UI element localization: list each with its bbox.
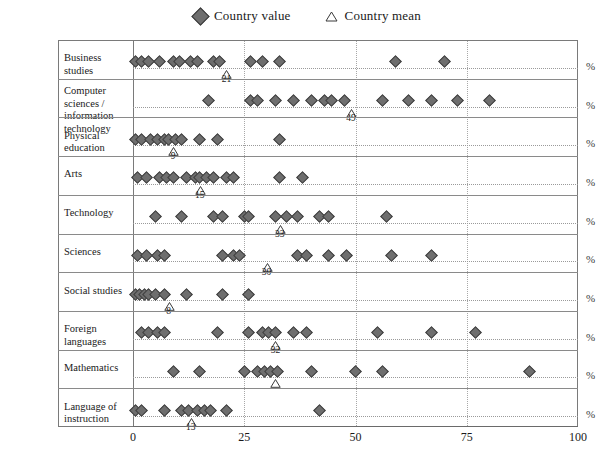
row-baseline [133, 261, 578, 262]
legend-item-country-value: Country value [194, 8, 291, 24]
row-separator [58, 156, 578, 157]
row-separator [58, 79, 578, 80]
row-separator [58, 350, 578, 351]
legend-item-country-mean: Country mean [325, 8, 421, 24]
row-label-social-studies: Social studies [64, 285, 132, 298]
percent-unit-label: % [586, 369, 595, 381]
row-label-physical-education: Physical education [64, 130, 132, 155]
row-separator [58, 388, 578, 389]
row-label-arts: Arts [64, 168, 132, 181]
percent-unit-label: % [586, 99, 595, 111]
x-tick-label-50: 50 [336, 430, 376, 445]
row-baseline [133, 416, 578, 417]
row-baseline [133, 68, 578, 69]
row-separator [58, 311, 578, 312]
diamond-icon [191, 7, 209, 25]
percent-unit-label: % [586, 60, 595, 72]
row-baseline [133, 339, 578, 340]
percent-unit-label: % [586, 331, 595, 343]
x-tick-label-0: 0 [113, 430, 153, 445]
row-baseline [133, 223, 578, 224]
percent-unit-label: % [586, 215, 595, 227]
chart-legend: Country value Country mean [0, 4, 615, 28]
country-mean-value-label: 13 [178, 422, 204, 432]
percent-unit-label: % [586, 408, 595, 420]
percent-unit-label: % [586, 253, 595, 265]
triangle-icon [325, 11, 338, 22]
row-label-foreign-languages: Foreign languages [64, 323, 132, 348]
x-axis-line [133, 426, 578, 427]
percent-unit-label: % [586, 292, 595, 304]
row-label-language-of-instruction: Language of instruction [64, 401, 132, 426]
x-tick-label-100: 100 [558, 430, 598, 445]
row-label-sciences: Sciences [64, 246, 132, 259]
country-mean-triangle [270, 374, 281, 392]
legend-label-country-mean: Country mean [345, 8, 421, 24]
row-separator [58, 234, 578, 235]
percent-unit-label: % [586, 137, 595, 149]
row-baseline [133, 300, 578, 301]
scatter-chart: Country value Country mean Business stud… [0, 0, 615, 451]
row-separator [58, 117, 578, 118]
percent-unit-label: % [586, 176, 595, 188]
row-label-technology: Technology [64, 207, 132, 220]
x-tick-label-75: 75 [447, 430, 487, 445]
row-label-mathematics: Mathematics [64, 362, 132, 375]
row-label-business-studies: Business studies [64, 52, 132, 77]
row-label-computer-sciences-information-technology: Computer sciences / information technolo… [64, 85, 132, 135]
x-tick-label-25: 25 [224, 430, 264, 445]
legend-label-country-value: Country value [214, 8, 291, 24]
row-separator [58, 272, 578, 273]
row-separator [58, 195, 578, 196]
